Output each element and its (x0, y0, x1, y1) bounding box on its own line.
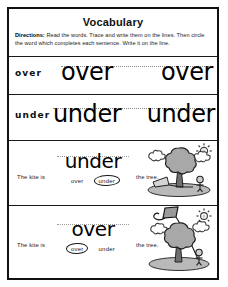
word-choice-over[interactable]: over (67, 176, 87, 185)
worksheet-header: Vocabulary Directions: Read the words. T… (9, 9, 217, 51)
trace-row-under: under under under (9, 94, 217, 140)
trace-word-group-over: over over (61, 59, 213, 84)
answer-written-word: over (57, 219, 129, 239)
kite-under-tree-illustration (143, 142, 215, 202)
directions-label: Directions: (15, 32, 45, 38)
sentence-lead-text: The kite is (17, 242, 45, 248)
sentence-item: The kite is over over under the tree. (9, 205, 217, 278)
trace-word-group-under: under under (53, 100, 215, 126)
trace-row-over: over over over (9, 56, 217, 94)
vocabulary-worksheet: Vocabulary Directions: Read the words. T… (0, 0, 228, 287)
trace-row-label-over: over (15, 68, 42, 78)
kite-over-tree-illustration (143, 206, 215, 276)
trace-word[interactable]: under (53, 100, 121, 126)
worksheet-page-frame: Vocabulary Directions: Read the words. T… (7, 7, 219, 280)
answer-blank[interactable]: over over under (57, 219, 129, 259)
word-choice-over[interactable]: over (67, 244, 87, 253)
directions-paragraph: Directions: Read the words. Trace and wr… (15, 32, 211, 47)
trace-word[interactable]: under (147, 100, 215, 126)
trace-guide-area-under: under under (53, 100, 215, 137)
trace-row-label-under: under (15, 110, 50, 120)
sentence-item: The kite is under over under the tree. (9, 140, 217, 205)
trace-word[interactable]: over (61, 59, 113, 84)
trace-word[interactable]: over (161, 59, 213, 84)
word-choice-group: over under (57, 244, 129, 253)
word-choice-under[interactable]: under (95, 176, 119, 185)
sentence-lead-text: The kite is (17, 174, 45, 180)
answer-written-word: under (57, 151, 129, 171)
page-title: Vocabulary (15, 16, 211, 28)
word-choice-group: over under (57, 176, 129, 185)
word-choice-under[interactable]: under (95, 244, 119, 253)
trace-guide-area-over: over over (61, 59, 213, 92)
answer-blank[interactable]: under over under (57, 151, 129, 191)
